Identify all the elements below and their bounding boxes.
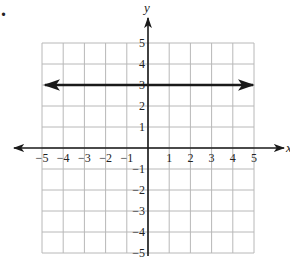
y-tick-label: −5 [132,246,145,259]
x-tick-label: −2 [99,151,112,165]
x-tick-labels: −5−4−3−2−112345 [36,151,257,165]
y-tick-label: −1 [132,162,145,176]
y-tick-label: −3 [132,204,145,218]
coordinate-plane: . x y −5−4−3−2−112345 54321−1−2−3−4−5 [0,0,290,259]
x-tick-label: 1 [166,151,172,165]
y-tick-label: −4 [132,225,145,239]
problem-marker: . [1,0,6,20]
x-tick-label: −4 [57,151,70,165]
x-tick-label: 2 [187,151,193,165]
y-axis-label: y [142,0,150,15]
y-tick-label: 4 [139,57,145,71]
x-tick-label: 3 [209,151,215,165]
x-tick-label: 4 [230,151,236,165]
y-tick-label: −2 [132,183,145,197]
y-tick-label: 5 [139,36,145,50]
x-tick-label: −3 [78,151,91,165]
x-tick-label: −5 [36,151,49,165]
y-tick-label: 1 [139,120,145,134]
x-tick-label: 5 [251,151,257,165]
y-tick-label: 2 [139,99,145,113]
x-axis-label: x [285,140,290,155]
